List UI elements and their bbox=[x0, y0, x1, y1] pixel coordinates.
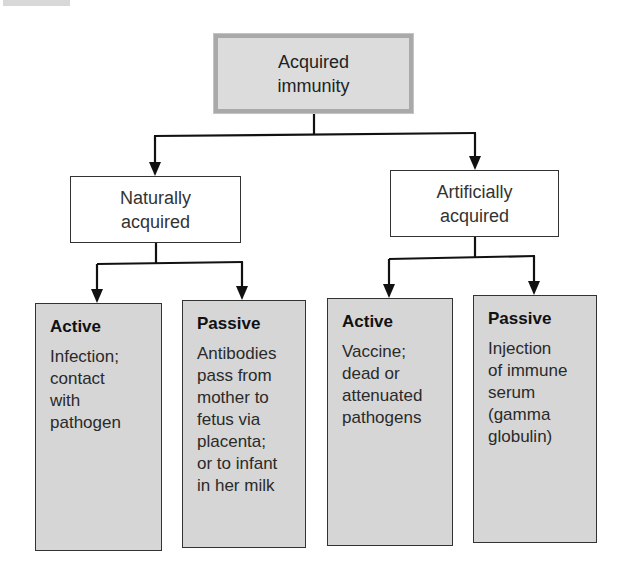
node-label: acquired bbox=[436, 204, 512, 228]
node-title: Passive bbox=[488, 308, 596, 330]
node-artificial-passive: Passive Injection of immune serum (gamma… bbox=[473, 295, 597, 543]
node-text-line: mother to bbox=[197, 387, 305, 409]
node-text-line: (gamma bbox=[488, 404, 596, 426]
node-text-line: contact bbox=[50, 368, 161, 390]
node-artificial-active: Active Vaccine; dead or attenuated patho… bbox=[327, 298, 453, 546]
node-text-line: pathogens bbox=[342, 407, 452, 429]
node-label: acquired bbox=[120, 210, 191, 234]
node-text-line: globulin) bbox=[488, 426, 596, 448]
node-text-line: with bbox=[50, 390, 161, 412]
node-text-line: Antibodies bbox=[197, 343, 305, 365]
node-label: immunity bbox=[277, 74, 349, 98]
node-artificially-acquired: Artificially acquired bbox=[390, 170, 559, 237]
node-title: Active bbox=[342, 311, 452, 333]
node-text-line: placenta; bbox=[197, 431, 305, 453]
node-text-line: or to infant bbox=[197, 453, 305, 475]
node-label: Acquired bbox=[277, 50, 349, 74]
node-text-line: pathogen bbox=[50, 412, 161, 434]
node-text-line: Infection; bbox=[50, 346, 161, 368]
node-label: Naturally bbox=[120, 186, 191, 210]
node-text-line: dead or bbox=[342, 363, 452, 385]
node-title: Active bbox=[50, 316, 161, 338]
node-text-line: fetus via bbox=[197, 409, 305, 431]
node-acquired-immunity: Acquired immunity bbox=[214, 34, 413, 113]
node-label: Artificially bbox=[436, 180, 512, 204]
node-natural-active: Active Infection; contact with pathogen bbox=[35, 303, 162, 551]
corner-artifact bbox=[3, 0, 70, 6]
node-text-line: Vaccine; bbox=[342, 341, 452, 363]
node-text-line: serum bbox=[488, 382, 596, 404]
node-title: Passive bbox=[197, 313, 305, 335]
node-text-line: in her milk bbox=[197, 475, 305, 497]
node-text-line: attenuated bbox=[342, 385, 452, 407]
node-natural-passive: Passive Antibodies pass from mother to f… bbox=[182, 300, 306, 548]
node-text-line: Injection bbox=[488, 338, 596, 360]
node-naturally-acquired: Naturally acquired bbox=[70, 176, 241, 243]
node-text-line: of immune bbox=[488, 360, 596, 382]
node-text-line: pass from bbox=[197, 365, 305, 387]
